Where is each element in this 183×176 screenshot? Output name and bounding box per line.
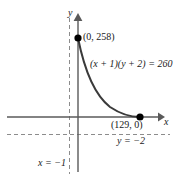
hyperbola-curve [78, 38, 140, 117]
y-intercept-label: (0, 258) [83, 32, 115, 42]
y-axis-arrow-icon [74, 13, 83, 21]
vertical-asymptote-label: x = −1 [38, 158, 66, 168]
y-axis-label: y [68, 8, 72, 18]
hyperbola-figure: y x (0, 258) (129, 0) (x + 1)(y + 2) = 2… [0, 0, 183, 176]
equation-label: (x + 1)(y + 2) = 260 [90, 59, 172, 69]
horizontal-asymptote-label: y = −2 [117, 136, 145, 146]
y-intercept-point [74, 34, 81, 41]
x-intercept-label: (129, 0) [111, 120, 143, 130]
x-axis-label: x [164, 117, 168, 127]
graph-canvas [0, 0, 183, 176]
